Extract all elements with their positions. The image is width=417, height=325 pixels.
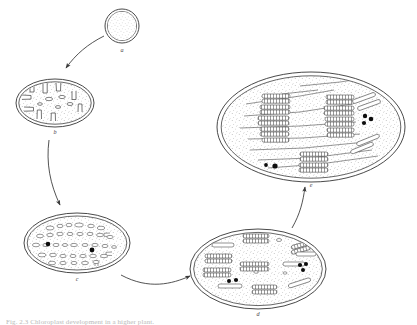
plastoglobulus: [363, 114, 367, 118]
plastoglobulus: [46, 242, 51, 247]
stage-d-early-granal[interactable]: d: [190, 227, 326, 317]
plastoglobulus: [298, 263, 302, 267]
plastoglobulus: [362, 121, 366, 125]
plastoglobulus: [369, 117, 374, 122]
stage-c-vesicle-stage[interactable]: c: [24, 213, 130, 282]
arrow-c-to-d: [121, 275, 190, 284]
plastoglobulus: [272, 163, 277, 168]
stage-a-stroma: [104, 8, 140, 44]
stage-label-e: e: [310, 181, 313, 188]
stage-label-c: c: [76, 275, 79, 282]
plastoglobulus: [304, 262, 308, 266]
plastoglobulus: [301, 268, 305, 272]
figure-caption-text: Fig. 2.3 Chloroplast development in a hi…: [6, 319, 154, 325]
arrow-a-to-b: [66, 36, 104, 68]
chloroplast-development-diagram: a b: [0, 0, 417, 325]
granum-stack-left: [258, 94, 290, 142]
stage-label-a: a: [120, 46, 123, 53]
plastoglobulus: [90, 248, 95, 253]
stage-e-mature-chloroplast[interactable]: e: [217, 72, 405, 188]
stage-label-b: b: [53, 128, 56, 135]
stage-b-proplastid-invaginations[interactable]: b: [16, 79, 94, 135]
stage-label-d: d: [256, 310, 260, 317]
figure-root: a b: [0, 0, 417, 325]
arrow-d-to-e: [292, 187, 305, 228]
plastoglobulus: [227, 279, 231, 283]
figure-caption-clipped: Fig. 2.3 Chloroplast development in a hi…: [6, 319, 306, 325]
plastoglobulus: [264, 163, 268, 167]
plastoglobulus: [234, 278, 238, 282]
arrow-b-to-c: [48, 140, 60, 205]
stage-a-proplastid[interactable]: a: [104, 8, 140, 53]
